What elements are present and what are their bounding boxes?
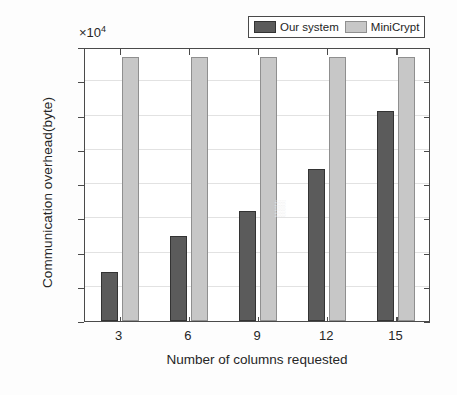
x-tick-mark-bottom (120, 317, 121, 322)
bar (170, 236, 187, 321)
x-tick-mark (189, 49, 190, 55)
y-tick-mark (78, 151, 84, 152)
legend-entry[interactable]: Our system (254, 21, 339, 33)
y-tick-mark-right (424, 151, 430, 152)
x-tick-mark (120, 49, 121, 55)
y-tick-mark-right (424, 48, 430, 49)
legend-label: MiniCrypt (371, 21, 420, 33)
bar (377, 111, 394, 321)
y-tick-mark (78, 48, 84, 49)
bar (239, 211, 256, 321)
light-gray-swatch (345, 21, 367, 33)
bar (122, 57, 139, 321)
y-tick-mark (78, 254, 84, 255)
x-tick-mark (327, 49, 328, 55)
x-tick-label: 12 (304, 328, 348, 343)
y-tick-mark (78, 322, 84, 323)
y-tick-mark-right (424, 288, 430, 289)
x-tick-mark (396, 49, 397, 55)
y-axis-multiplier-base: ×10 (79, 25, 101, 40)
x-tick-mark-bottom (258, 317, 259, 322)
y-tick-mark (78, 185, 84, 186)
y-axis-multiplier-exponent: 4 (101, 24, 106, 34)
bar (398, 57, 415, 321)
bar (101, 272, 118, 321)
legend-label: Our system (280, 21, 339, 33)
y-tick-mark (78, 117, 84, 118)
plot-area: ▒ (84, 48, 430, 322)
y-tick-mark-right (424, 82, 430, 83)
x-tick-mark-bottom (396, 317, 397, 322)
chart-legend[interactable]: Our systemMiniCrypt (248, 16, 425, 38)
y-tick-mark-right (424, 322, 430, 323)
bar (260, 57, 277, 321)
x-tick-mark (258, 49, 259, 55)
x-tick-mark-bottom (327, 317, 328, 322)
x-tick-label: 3 (97, 328, 141, 343)
bar (329, 57, 346, 321)
y-axis-multiplier: ×104 (79, 24, 106, 40)
x-tick-label: 15 (373, 328, 417, 343)
y-tick-mark (78, 288, 84, 289)
y-tick-mark-right (424, 117, 430, 118)
y-tick-mark (78, 82, 84, 83)
x-tick-label: 6 (166, 328, 210, 343)
x-tick-mark-bottom (189, 317, 190, 322)
y-tick-mark-right (424, 254, 430, 255)
legend-entry[interactable]: MiniCrypt (345, 21, 420, 33)
x-axis-title: Number of columns requested (84, 352, 430, 367)
y-tick-mark (78, 219, 84, 220)
dark-gray-swatch (254, 21, 276, 33)
x-tick-label: 9 (235, 328, 279, 343)
y-axis-title: Communication overhead(byte) (40, 43, 55, 343)
y-tick-mark-right (424, 219, 430, 220)
bar (308, 169, 325, 321)
bar (191, 57, 208, 321)
chart-figure: Communication overhead(byte) ×104 ▒ 00.5… (0, 0, 457, 395)
y-tick-mark-right (424, 185, 430, 186)
